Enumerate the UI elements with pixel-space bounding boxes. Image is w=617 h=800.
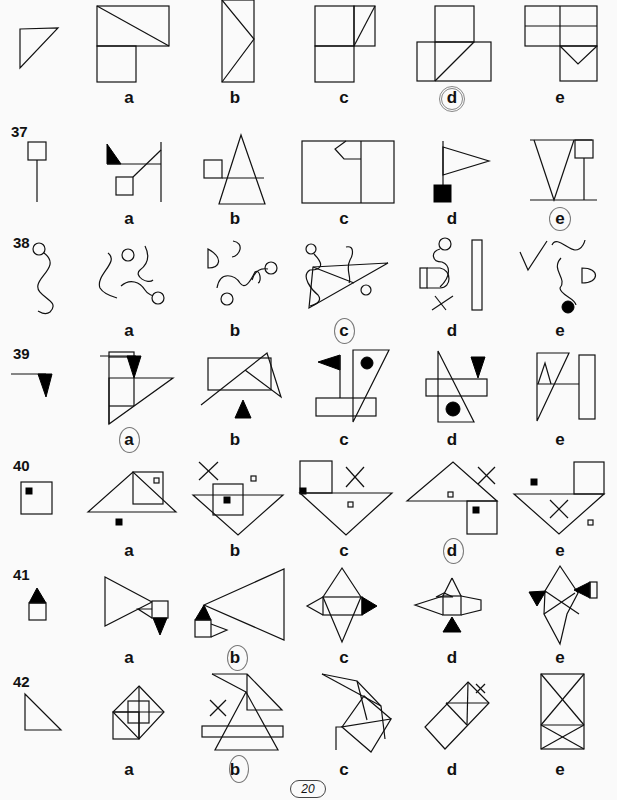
question-number: 41 — [13, 566, 30, 583]
option-label-b[interactable]: b — [225, 209, 245, 229]
q38-option-e — [520, 240, 596, 313]
q37-stem-figure — [28, 142, 46, 202]
q38-option-c — [306, 244, 388, 308]
q40-option-d — [407, 462, 497, 534]
q40-option-e — [514, 462, 604, 534]
q42-option-d — [425, 682, 489, 749]
answer-circle — [119, 427, 140, 453]
q36-option-a — [97, 6, 169, 82]
option-label-c[interactable]: c — [334, 209, 354, 229]
q39-option-e — [537, 353, 595, 421]
option-label-c[interactable]: c — [334, 760, 354, 780]
q40-stem-figure — [21, 482, 52, 514]
option-label-b[interactable]: b — [225, 88, 245, 108]
q42-option-e — [541, 674, 584, 749]
option-label-e[interactable]: e — [550, 321, 570, 341]
q38-option-a — [99, 246, 164, 304]
q38-stem-figure — [33, 243, 53, 314]
option-label-a[interactable]: a — [119, 209, 139, 229]
question-number: 38 — [13, 234, 30, 251]
question-number: 37 — [11, 123, 28, 140]
q36-option-b — [222, 0, 254, 82]
q41-option-b — [195, 569, 284, 640]
q40-option-c — [300, 461, 392, 535]
option-label-c[interactable]: c — [334, 88, 354, 108]
answer-circle — [227, 645, 248, 671]
option-label-a[interactable]: a — [119, 648, 139, 668]
q36-option-e — [525, 6, 597, 81]
question-number: 42 — [13, 673, 30, 690]
q36-stem-figure — [20, 28, 58, 68]
option-label-a[interactable]: a — [119, 760, 139, 780]
q41-option-d — [415, 578, 481, 632]
q42-stem-figure — [25, 694, 61, 730]
q37-option-e — [530, 140, 597, 200]
q41-option-c — [307, 568, 377, 642]
option-label-d[interactable]: d — [442, 321, 462, 341]
answer-circle — [443, 538, 464, 564]
q38-option-d — [420, 238, 482, 310]
q36-option-c — [315, 6, 375, 82]
option-label-e[interactable]: e — [550, 430, 570, 450]
q41-option-e — [529, 566, 597, 644]
question-number: 39 — [13, 345, 30, 362]
option-label-b[interactable]: b — [225, 430, 245, 450]
q36-option-d — [417, 6, 491, 81]
option-label-e[interactable]: e — [550, 760, 570, 780]
q42-option-c — [322, 674, 391, 752]
q41-option-a — [105, 577, 168, 635]
q42-option-a — [113, 686, 164, 739]
option-label-a[interactable]: a — [119, 321, 139, 341]
test-page: 37 38 39 40 41 42 a b c d e a b c d e a … — [0, 0, 617, 800]
answer-circle — [549, 207, 571, 231]
answer-circle — [334, 318, 355, 344]
answer-circle — [439, 86, 465, 112]
q38-option-b — [208, 241, 277, 305]
figure-drawings — [0, 0, 617, 800]
option-label-a[interactable]: a — [119, 541, 139, 561]
option-label-e[interactable]: e — [550, 541, 570, 561]
option-label-c[interactable]: c — [334, 430, 354, 450]
q39-stem-figure — [11, 374, 52, 397]
option-label-e[interactable]: e — [550, 88, 570, 108]
option-label-d[interactable]: d — [442, 209, 462, 229]
q41-stem-figure — [29, 588, 46, 620]
option-label-c[interactable]: c — [334, 541, 354, 561]
option-label-b[interactable]: b — [225, 541, 245, 561]
question-number: 40 — [13, 457, 30, 474]
option-label-d[interactable]: d — [442, 648, 462, 668]
q40-option-a — [88, 472, 176, 525]
q40-option-b — [193, 462, 283, 535]
q37-option-b — [204, 135, 265, 204]
answer-circle — [229, 755, 249, 783]
option-label-e[interactable]: e — [550, 648, 570, 668]
page-number: 20 — [290, 780, 326, 798]
option-label-d[interactable]: d — [442, 760, 462, 780]
q39-option-a — [100, 352, 173, 424]
q37-option-d — [434, 141, 489, 202]
option-label-d[interactable]: d — [442, 430, 462, 450]
option-label-b[interactable]: b — [225, 321, 245, 341]
option-label-c[interactable]: c — [334, 648, 354, 668]
q42-option-b — [202, 674, 283, 750]
option-label-a[interactable]: a — [119, 88, 139, 108]
q37-option-a — [107, 142, 161, 202]
q39-option-d — [426, 351, 487, 422]
q39-option-b — [201, 353, 281, 418]
q39-option-c — [316, 350, 389, 422]
q37-option-c — [302, 141, 394, 203]
